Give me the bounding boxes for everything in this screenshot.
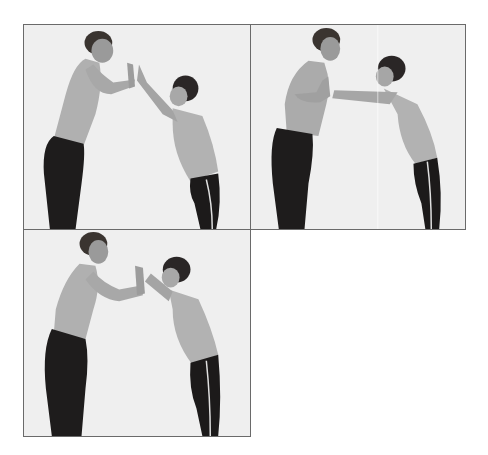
exercise-photo-1 bbox=[24, 25, 250, 229]
photo-panel-2: Left partner bends elbows, right partner… bbox=[250, 24, 466, 230]
photo-panel-3: Both partners push palms together with a… bbox=[23, 229, 251, 437]
exercise-photo-2 bbox=[251, 25, 465, 229]
exercise-photo-3 bbox=[24, 230, 250, 436]
photo-panel-1: Partners stand facing, palms pressed tog… bbox=[23, 24, 251, 230]
